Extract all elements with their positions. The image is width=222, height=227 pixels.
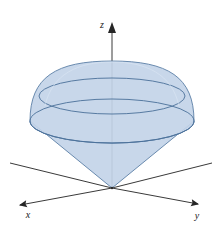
figure-canvas: z x y [0, 0, 222, 227]
axis-z-arrowhead [108, 22, 116, 33]
origin-point [111, 187, 113, 189]
dome-cap-surface [30, 61, 194, 143]
solid-of-revolution-figure: z x y [0, 0, 222, 227]
solid-group [30, 61, 194, 188]
axis-label-x: x [25, 209, 31, 220]
axis-label-y: y [194, 210, 200, 221]
axis-label-z: z [99, 19, 104, 30]
axis-y-line [112, 188, 198, 204]
axis-x-line [20, 188, 112, 205]
